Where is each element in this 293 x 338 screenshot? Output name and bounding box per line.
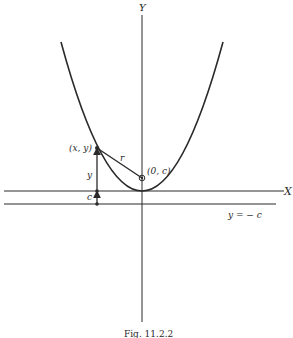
focus-point-center [141,177,143,179]
parabola-focus-directrix-diagram: Y X y = − c r y c (x, y) (0, c) Fig. 11.… [0,0,293,338]
offset-label-c: c [87,192,92,202]
focus-label: (0, c) [147,166,171,176]
point-on-parabola [95,146,99,150]
directrix-intersection-dot [95,202,99,206]
height-label-y: y [86,170,93,180]
figure-caption: Fig. 11.2.2 [124,329,173,338]
point-label: (x, y) [69,143,92,153]
directrix-label: y = − c [227,210,262,220]
x-axis-label: X [283,185,293,198]
distance-label-r: r [120,153,125,163]
y-axis-label: Y [139,2,147,13]
axis-intersection-dot [95,189,99,193]
